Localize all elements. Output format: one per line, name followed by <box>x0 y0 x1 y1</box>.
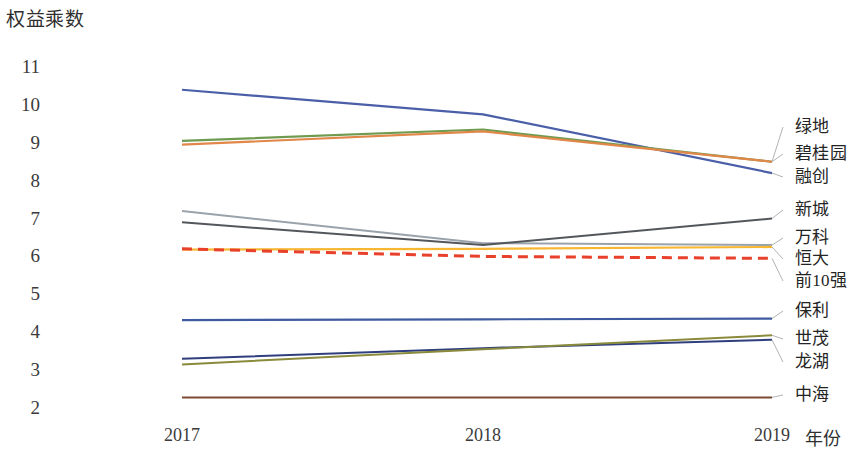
leader-line-8 <box>772 335 783 339</box>
series-line-1 <box>182 130 772 162</box>
leader-line-6 <box>772 258 783 281</box>
series-line-2 <box>182 131 772 161</box>
series-label-世茂: 世茂 <box>795 330 830 347</box>
series-label-碧桂园: 碧桂园 <box>795 145 847 162</box>
series-line-4 <box>182 219 772 246</box>
series-label-绿地: 绿地 <box>795 118 830 135</box>
leader-line-2 <box>772 173 783 177</box>
series-line-7 <box>182 319 772 321</box>
series-label-前10强: 前10强 <box>795 272 847 289</box>
leader-line-5 <box>772 247 783 259</box>
series-label-龙湖: 龙湖 <box>795 353 830 370</box>
leader-line-10 <box>772 395 783 397</box>
chart-root: 权益乘数 111098765432 201720182019 绿地碧桂园融创新城… <box>0 0 865 449</box>
series-line-9 <box>182 335 772 364</box>
series-label-万科: 万科 <box>795 229 830 246</box>
leader-line-7 <box>772 311 783 319</box>
series-label-中海: 中海 <box>795 386 830 403</box>
series-line-5 <box>182 247 772 250</box>
series-label-新城: 新城 <box>795 201 830 218</box>
series-label-保利: 保利 <box>795 302 830 319</box>
series-label-恒大: 恒大 <box>795 250 830 267</box>
x-axis-title: 年份 <box>805 424 841 449</box>
leader-line-4 <box>772 238 783 245</box>
series-line-6 <box>182 249 772 258</box>
leader-line-9 <box>772 340 783 362</box>
leader-line-0 <box>772 127 783 162</box>
series-label-融创: 融创 <box>795 168 830 185</box>
line-chart-canvas <box>0 0 865 449</box>
leader-line-3 <box>772 210 783 219</box>
